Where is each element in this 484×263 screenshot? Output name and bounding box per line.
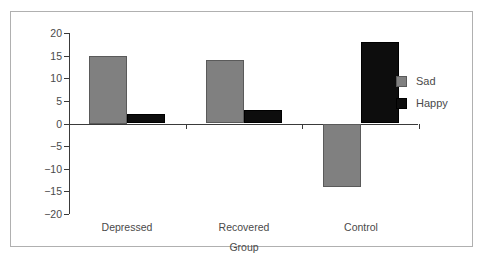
y-axis-tick-label: −5 [50, 141, 62, 152]
plot-area: 20151050−5−10−15−20 DepressedRecoveredCo… [69, 33, 419, 214]
y-axis-tick-label: 20 [50, 28, 62, 39]
legend-item-sad: Sad [396, 70, 476, 92]
y-axis-tick-label: 5 [56, 96, 62, 107]
bar-recovered-happy [244, 110, 282, 124]
legend-label: Happy [416, 98, 448, 109]
y-axis-tick-label: 0 [56, 118, 62, 129]
legend-label: Sad [416, 76, 436, 87]
x-axis-tick [69, 124, 70, 129]
bar-control-sad [323, 124, 361, 187]
x-axis-title: Group [229, 242, 258, 253]
x-axis-category-label: Control [344, 222, 378, 233]
y-axis-tick [64, 78, 69, 79]
y-axis-tick [64, 33, 69, 34]
x-axis-zero-line [69, 124, 418, 125]
x-axis-category-label: Recovered [219, 222, 270, 233]
y-axis-tick [64, 214, 69, 215]
bar-recovered-sad [206, 60, 244, 123]
y-axis-tick-label: −20 [44, 209, 62, 220]
y-axis-tick-label: 10 [50, 73, 62, 84]
y-axis-tick [64, 146, 69, 147]
bar-depressed-sad [89, 56, 127, 124]
y-axis-tick-label: −15 [44, 186, 62, 197]
y-axis-tick-label: −10 [44, 164, 62, 175]
legend-swatch-happy-icon [396, 98, 407, 109]
y-axis-tick [64, 169, 69, 170]
legend-item-happy: Happy [396, 92, 476, 114]
bar-depressed-happy [127, 114, 165, 123]
x-axis-category-label: Depressed [102, 222, 153, 233]
chart-legend: SadHappy [396, 70, 476, 114]
x-axis-tick [302, 124, 303, 129]
y-axis-tick-label: 15 [50, 50, 62, 61]
bar-control-happy [361, 42, 399, 123]
chart-figure: 20151050−5−10−15−20 DepressedRecoveredCo… [10, 11, 473, 247]
y-axis-tick [64, 56, 69, 57]
x-axis-tick [186, 124, 187, 129]
legend-swatch-sad-icon [396, 76, 407, 87]
y-axis-tick [64, 101, 69, 102]
y-axis-tick [64, 191, 69, 192]
x-axis-tick [419, 124, 420, 129]
